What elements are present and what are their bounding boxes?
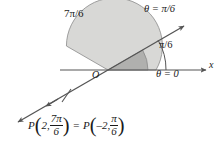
angle-label-pi6: π/6 — [159, 40, 172, 51]
equation-right-r: –2 — [97, 119, 108, 131]
polar-coordinates-figure: 7π/6 θ = π/6 π/6 θ = 0 x O P(2,7π6)=P(–2… — [0, 0, 220, 144]
close-paren-left: ) — [63, 119, 70, 132]
equation-left-theta-fraction: 7π6 — [50, 113, 63, 137]
equation-left-symbol: P — [28, 119, 35, 131]
equation-left-theta-den: 6 — [50, 126, 63, 138]
equation-right-theta-fraction: π6 — [110, 113, 118, 137]
equation-right-symbol: P — [83, 119, 90, 131]
point-equivalence-equation: P(2,7π6)=P(–2,π6) — [28, 114, 125, 138]
x-axis-label: x — [209, 60, 213, 70]
ray-direction-marker — [48, 99, 58, 105]
open-paren-left: ( — [35, 119, 42, 132]
ray-label-theta-zero: θ = 0 — [156, 69, 179, 80]
equation-equals: = — [73, 119, 80, 131]
angle-label-7pi6: 7π/6 — [64, 8, 84, 19]
equation-right-theta-den: 6 — [110, 126, 118, 138]
origin-label: O — [92, 70, 99, 80]
ray-label-theta-pi6: θ = π/6 — [144, 4, 175, 15]
open-paren-right: ( — [90, 119, 97, 132]
close-paren-right: ) — [118, 119, 125, 132]
